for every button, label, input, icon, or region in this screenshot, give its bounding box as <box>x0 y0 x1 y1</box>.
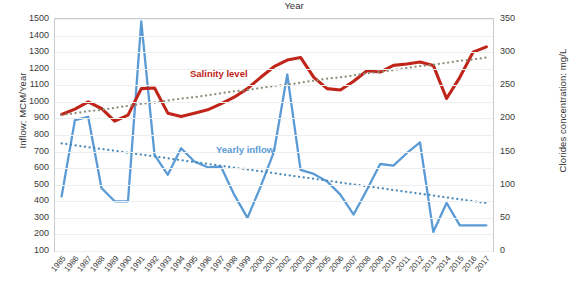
gridline <box>55 69 493 70</box>
left-axis-tick: 1000 <box>19 96 49 106</box>
gridline <box>55 218 493 219</box>
left-axis-tick: 1200 <box>19 63 49 73</box>
right-axis-tick: 350 <box>500 13 526 23</box>
right-axis-tick: 250 <box>500 79 526 89</box>
left-axis-tick: 700 <box>19 146 49 156</box>
gridlines <box>55 19 493 251</box>
gridline <box>55 251 493 252</box>
left-axis-tick: 1100 <box>19 79 49 89</box>
right-axis-tick: 0 <box>500 245 526 255</box>
gridline <box>55 135 493 136</box>
left-axis-tick: 300 <box>19 212 49 222</box>
series-label-inflow: Yearly inflow <box>216 144 274 155</box>
left-axis-tick: 600 <box>19 162 49 172</box>
left-axis-tick: 900 <box>19 112 49 122</box>
gridline <box>55 85 493 86</box>
right-axis-title: Clorides concentration: mg/L <box>557 41 568 181</box>
gridline <box>55 168 493 169</box>
right-axis-tick: 100 <box>500 179 526 189</box>
x-axis-title: Year <box>0 0 588 11</box>
left-axis-tick: 100 <box>19 245 49 255</box>
left-axis-tick: 200 <box>19 228 49 238</box>
gridline <box>55 118 493 119</box>
left-axis-tick: 1400 <box>19 30 49 40</box>
gridline <box>55 201 493 202</box>
left-axis-tick: 800 <box>19 129 49 139</box>
right-axis-tick: 150 <box>500 146 526 156</box>
left-axis-title: Inflow: MCM/Year <box>17 41 28 181</box>
right-axis-tick: 300 <box>500 46 526 56</box>
gridline <box>55 102 493 103</box>
right-axis-tick: 200 <box>500 112 526 122</box>
gridline <box>55 234 493 235</box>
right-axis-tick: 50 <box>500 212 526 222</box>
left-axis-tick: 1500 <box>19 13 49 23</box>
series-label-salinity: Salinity level <box>190 68 248 79</box>
gridline <box>55 19 493 20</box>
left-axis-tick: 500 <box>19 179 49 189</box>
left-axis-tick: 400 <box>19 195 49 205</box>
gridline <box>55 52 493 53</box>
gridline <box>55 185 493 186</box>
gridline <box>55 36 493 37</box>
chart-container: Inflow: MCM/Year Clorides concentration:… <box>0 0 588 299</box>
plot-area <box>54 18 494 252</box>
left-axis-tick: 1300 <box>19 46 49 56</box>
